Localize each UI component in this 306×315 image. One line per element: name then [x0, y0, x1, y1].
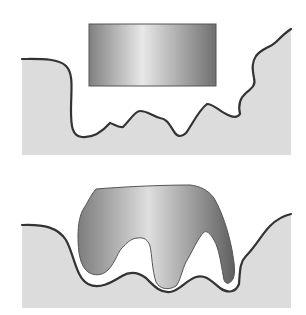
- figure: [0, 0, 306, 315]
- rigid-block: [89, 24, 216, 86]
- top-panel: [22, 24, 291, 155]
- bottom-panel: [22, 185, 291, 308]
